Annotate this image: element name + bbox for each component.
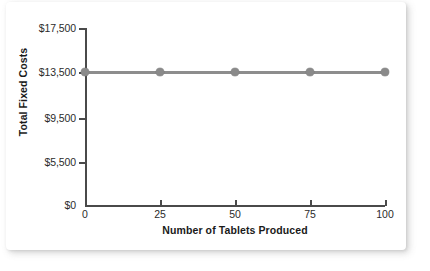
y-axis-line <box>85 28 87 206</box>
fixed-costs-line-chart: $17,500 $13,500 $9,500 $5,500 $0 0 25 50… <box>0 0 430 271</box>
y-tick-mark-9500 <box>79 118 85 120</box>
data-point-marker <box>81 68 89 76</box>
data-point-marker <box>381 68 389 76</box>
x-tick-mark-75 <box>310 200 312 206</box>
x-tick-label-100: 100 <box>365 208 405 220</box>
y-tick-mark-17500 <box>79 28 85 30</box>
data-point-marker <box>231 68 239 76</box>
y-axis-title: Total Fixed Costs <box>17 31 29 153</box>
x-tick-mark-50 <box>235 200 237 206</box>
x-axis-title: Number of Tablets Produced <box>85 224 385 236</box>
y-tick-mark-5500 <box>79 162 85 164</box>
x-tick-label-25: 25 <box>140 208 180 220</box>
x-tick-label-0: 0 <box>65 208 105 220</box>
x-tick-mark-25 <box>160 200 162 206</box>
x-tick-mark-100 <box>385 200 387 206</box>
y-tick-label-5500-wrap: $5,500 <box>16 156 76 169</box>
x-tick-label-75: 75 <box>290 208 330 220</box>
x-tick-label-50: 50 <box>215 208 255 220</box>
y-tick-label-5500: $5,500 <box>20 156 76 168</box>
x-tick-mark-0 <box>85 200 87 206</box>
data-point-marker <box>306 68 314 76</box>
data-point-marker <box>156 68 164 76</box>
